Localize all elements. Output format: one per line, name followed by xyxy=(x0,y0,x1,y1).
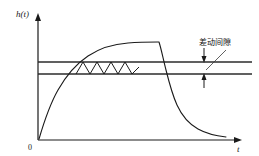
origin-label: 0 xyxy=(28,143,32,152)
x-axis-arrowhead xyxy=(234,137,242,143)
response-diagram: h(t) t 0 差动间隙 xyxy=(0,0,259,156)
oscillation-group xyxy=(76,62,139,74)
x-axis xyxy=(38,137,242,143)
y-axis-label: h(t) xyxy=(16,9,29,19)
y-axis-arrowhead xyxy=(35,13,41,21)
figure-container: h(t) t 0 差动间隙 xyxy=(0,0,259,156)
x-axis-label: t xyxy=(237,144,240,154)
leader-line xyxy=(206,50,226,70)
differential-gap-label: 差动间隙 xyxy=(199,37,231,47)
sawtooth-oscillation-path xyxy=(76,62,139,74)
annotation-leader xyxy=(206,50,226,70)
differential-gap-measure xyxy=(202,48,207,88)
response-curve xyxy=(39,42,226,139)
y-axis xyxy=(35,13,41,140)
response-curve-group xyxy=(39,42,226,139)
